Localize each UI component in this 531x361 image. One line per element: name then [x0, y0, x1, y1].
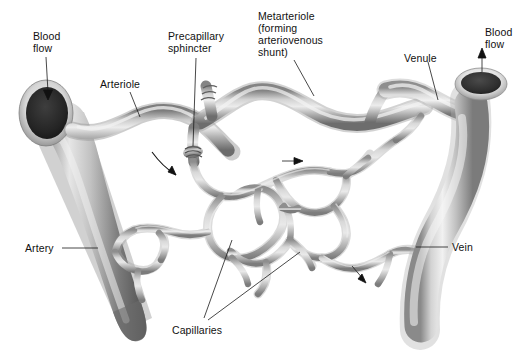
vessel-network: [19, 68, 507, 341]
capillary-rung-b: [282, 208, 298, 210]
label-precapillary-sphincter-line1: Precapillary: [168, 30, 225, 42]
label-venule: Venule: [404, 52, 437, 64]
capillary-bed: [115, 116, 424, 300]
microcirculation-diagram: Blood flow Arteriole Precapillary sphinc…: [0, 0, 531, 361]
vein-lumen: [461, 72, 501, 94]
vein-vessel: [414, 100, 473, 330]
label-vein: Vein: [452, 241, 473, 253]
vein-opening: [455, 68, 507, 100]
diagram-canvas: Blood flow Arteriole Precapillary sphinc…: [0, 0, 531, 361]
label-metarteriole-line2: (forming: [258, 22, 297, 34]
capillary-left-small-loop-up: [159, 233, 165, 260]
label-capillaries: Capillaries: [172, 324, 222, 336]
label-blood-flow-left-line1: Blood: [33, 30, 60, 42]
label-blood-flow-right-line1: Blood: [485, 26, 512, 38]
capillary-shadow-pass: [116, 116, 424, 294]
label-arteriole: Arteriole: [100, 78, 140, 90]
capillary-rung-a: [257, 190, 260, 222]
metarteriole-proximal-stub: [206, 86, 212, 116]
label-metarteriole-line1: Metarteriole: [258, 10, 315, 22]
label-precapillary-sphincter-line2: sphincter: [168, 42, 212, 54]
capillary-segments: [115, 116, 423, 300]
capillary-left-tail: [137, 271, 142, 300]
label-metarteriole-line3: arteriovenous: [258, 34, 323, 46]
label-blood-flow-right-line2: flow: [485, 38, 504, 50]
arrow-metarteriole-flow: [282, 158, 303, 165]
label-blood-flow-left-line2: flow: [33, 42, 52, 54]
label-metarteriole-line4: shunt): [258, 46, 288, 58]
label-artery: Artery: [25, 242, 54, 254]
leader-metarteriole: [294, 60, 314, 96]
arrow-into-capillary-bed: [152, 152, 176, 175]
